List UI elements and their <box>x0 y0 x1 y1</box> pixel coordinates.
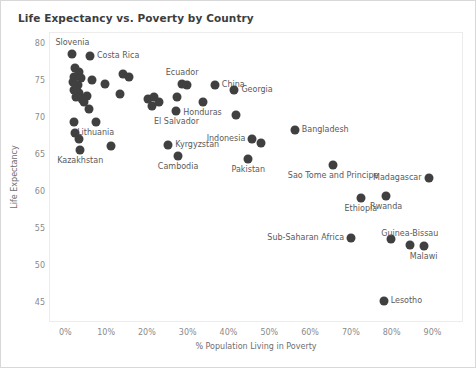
data-point-label: Sao Tome and Principe <box>288 172 379 180</box>
data-point[interactable] <box>85 51 94 60</box>
data-point[interactable] <box>116 90 125 99</box>
data-point-label: Indonesia <box>207 135 246 143</box>
chart-container: Life Expectancy vs. Poverty by Country L… <box>0 0 476 368</box>
data-point[interactable] <box>419 242 428 251</box>
data-point-label: Kazakhstan <box>57 157 103 165</box>
data-point[interactable] <box>405 240 414 249</box>
y-tick-label: 55 <box>35 223 45 232</box>
data-point[interactable] <box>347 233 356 242</box>
data-point-label: Georgia <box>241 86 272 94</box>
data-point[interactable] <box>101 79 110 88</box>
x-tick-label: 90% <box>424 328 442 337</box>
data-point[interactable] <box>74 134 83 143</box>
data-point[interactable] <box>183 81 192 90</box>
x-axis-tick-labels: 0%10%20%30%40%50%60%70%80%90% <box>49 328 463 342</box>
data-point[interactable] <box>379 297 388 306</box>
data-point[interactable] <box>248 134 257 143</box>
data-point[interactable] <box>107 141 116 150</box>
data-point[interactable] <box>76 146 85 155</box>
y-tick-label: 70 <box>35 112 45 121</box>
x-axis-title: % Population Living in Poverty <box>49 342 463 351</box>
data-point[interactable] <box>172 106 181 115</box>
data-point-label: Ecuador <box>166 69 199 77</box>
x-tick-label: 80% <box>383 328 401 337</box>
data-point[interactable] <box>290 125 299 134</box>
data-point-label: Cambodia <box>158 163 198 171</box>
data-point-label: Guinea-Bissau <box>381 230 438 238</box>
data-point-label: Pakistan <box>231 166 265 174</box>
data-point[interactable] <box>198 97 207 106</box>
x-tick-label: 70% <box>342 328 360 337</box>
data-point[interactable] <box>232 110 241 119</box>
data-point-label: Lesotho <box>391 297 422 305</box>
y-tick-label: 50 <box>35 260 45 269</box>
data-point-label: Rwanda <box>370 203 402 211</box>
x-tick-label: 40% <box>220 328 238 337</box>
data-point[interactable] <box>174 152 183 161</box>
data-point-label: Sub-Saharan Africa <box>267 234 344 242</box>
data-point[interactable] <box>164 140 173 149</box>
data-point[interactable] <box>210 81 219 90</box>
x-tick-label: 10% <box>97 328 115 337</box>
y-axis-title-text: Life Expectancy <box>10 145 19 208</box>
data-point[interactable] <box>85 105 94 114</box>
data-point[interactable] <box>125 72 134 81</box>
y-tick-label: 60 <box>35 186 45 195</box>
data-point[interactable] <box>70 118 79 127</box>
x-tick-label: 20% <box>138 328 156 337</box>
x-tick-label: 30% <box>179 328 197 337</box>
y-tick-label: 45 <box>35 297 45 306</box>
y-tick-label: 65 <box>35 149 45 158</box>
data-point-label: Costa Rica <box>97 52 139 60</box>
data-point[interactable] <box>88 75 97 84</box>
data-point[interactable] <box>356 193 365 202</box>
data-point[interactable] <box>91 118 100 127</box>
data-point-label: Honduras <box>183 109 222 117</box>
y-tick-label: 75 <box>35 76 45 85</box>
y-axis-title: Life Expectancy <box>7 32 21 322</box>
data-point[interactable] <box>68 50 77 59</box>
y-tick-label: 80 <box>35 39 45 48</box>
data-point-label: Bangladesh <box>302 126 349 134</box>
x-tick-label: 60% <box>301 328 319 337</box>
data-point[interactable] <box>424 174 433 183</box>
y-axis-tick-labels: 8075706560555045 <box>25 32 45 322</box>
x-tick-label: 50% <box>260 328 278 337</box>
data-point[interactable] <box>257 139 266 148</box>
data-point[interactable] <box>244 155 253 164</box>
data-point-label: El Salvador <box>154 118 199 126</box>
plot-area: SloveniaCosta RicaEcuadorEl SalvadorChin… <box>49 32 463 322</box>
data-point[interactable] <box>230 85 239 94</box>
data-point[interactable] <box>382 192 391 201</box>
x-tick-label: 0% <box>59 328 72 337</box>
data-point[interactable] <box>173 93 182 102</box>
data-point-label: Madagascar <box>373 174 422 182</box>
data-point[interactable] <box>329 161 338 170</box>
data-point[interactable] <box>147 102 156 111</box>
chart-title: Life Expectancy vs. Poverty by Country <box>18 12 254 24</box>
data-point-label: Malawi <box>410 253 438 261</box>
data-point-label: Slovenia <box>55 39 89 47</box>
